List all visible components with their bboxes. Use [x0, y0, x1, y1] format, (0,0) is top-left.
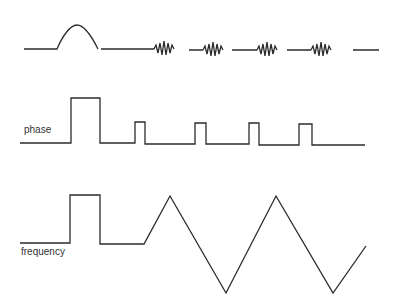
- phase-label: phase: [24, 124, 51, 135]
- phase-trace: [20, 98, 365, 145]
- frequency-label: frequency: [21, 246, 65, 257]
- frequency-trace: [20, 195, 366, 293]
- amplitude-trace: [24, 25, 379, 56]
